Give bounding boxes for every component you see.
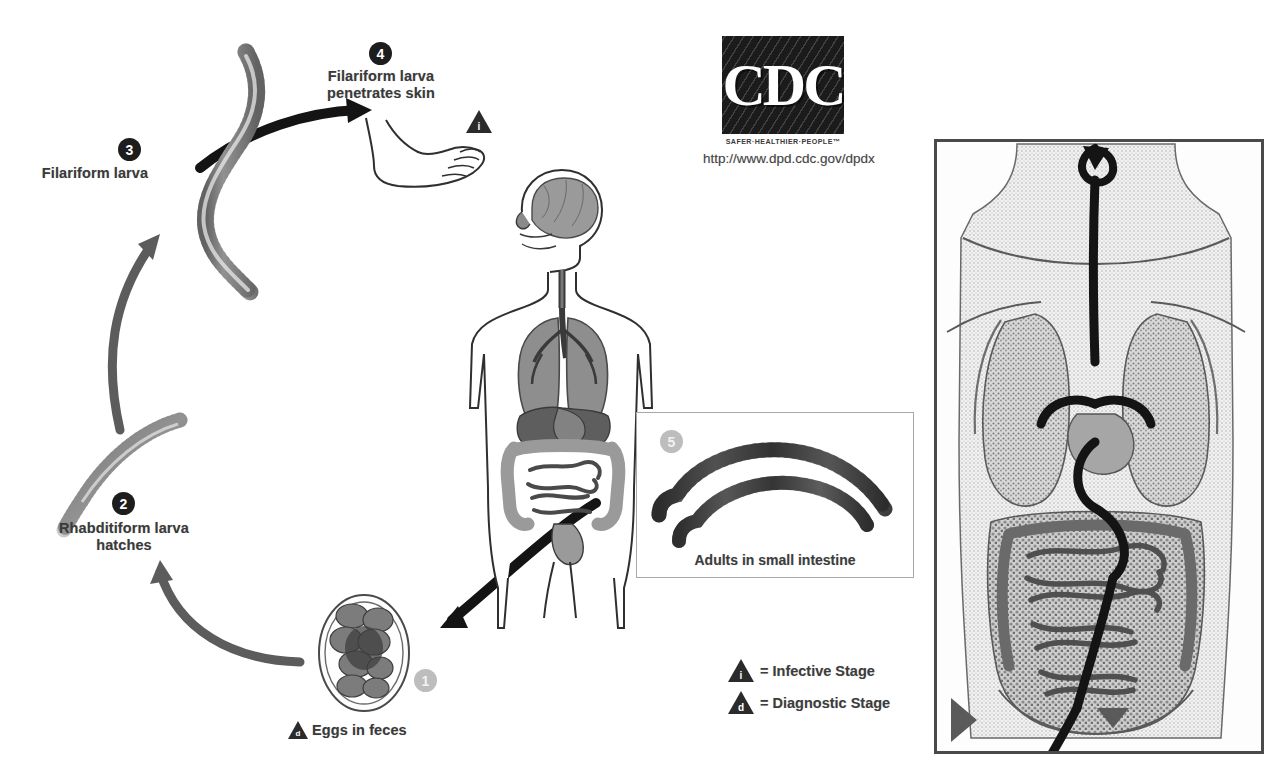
infective-glyph: i [478, 122, 481, 134]
infective-stage-icon-step4: i [466, 110, 492, 134]
cdc-logo-text: CDC [723, 55, 844, 115]
step-4-badge: 4 [369, 42, 392, 65]
torso-anatomy-drawing [937, 142, 1255, 745]
parasite-egg-illustration [312, 592, 416, 714]
cdc-logo: CDC SAFER·HEALTHIER·PEOPLE™ http://www.d… [722, 36, 863, 166]
life-cycle-diagram: 3 Filariform larva 4 Filariform larva pe… [0, 0, 1275, 780]
legend: i = Infective Stage d = Diagnostic Stage [728, 655, 890, 719]
legend-label-diagnostic: = Diagnostic Stage [760, 695, 890, 711]
step-1-badge: 1 [414, 669, 437, 692]
cdc-tagline: SAFER·HEALTHIER·PEOPLE™ [724, 137, 841, 146]
step-3-badge: 3 [118, 138, 141, 161]
diagnostic-icon-glyph: d [738, 703, 744, 715]
filariform-larva-illustration [176, 46, 296, 306]
step-3-number: 3 [126, 142, 134, 158]
step-1-label: Eggs in feces [312, 722, 442, 739]
legend-item-diagnostic: d = Diagnostic Stage [728, 687, 890, 719]
legend-item-infective: i = Infective Stage [728, 655, 890, 687]
step-1-number: 1 [422, 673, 430, 689]
diagnostic-stage-icon: d [728, 691, 754, 715]
step-2-label: Rhabditiform larva hatches [38, 520, 210, 554]
step-4-label: Filariform larva penetrates skin [313, 68, 449, 102]
legend-label-infective: = Infective Stage [760, 663, 875, 679]
adult-worms-illustration [653, 439, 901, 545]
step-4-number: 4 [377, 46, 385, 62]
step-3-label: Filariform larva [30, 165, 160, 182]
adults-inset-box: 5 Adults in small intestine [636, 412, 914, 578]
torso-anatomy-migration-panel [934, 139, 1264, 754]
step-2-badge: 2 [112, 492, 135, 515]
human-body-anatomy-illustration [462, 158, 652, 578]
rhabditiform-larva-illustration [40, 408, 210, 538]
diagnostic-glyph: d [296, 730, 301, 739]
diagnostic-stage-icon-step1: d [288, 721, 308, 739]
cdc-url: http://www.dpd.cdc.gov/dpdx [703, 151, 863, 166]
step-5-label: Adults in small intestine [637, 552, 913, 568]
infective-stage-icon: i [728, 659, 754, 683]
infective-icon-glyph: i [740, 671, 743, 683]
cdc-logo-box: CDC [722, 36, 844, 134]
step-2-number: 2 [120, 496, 128, 512]
